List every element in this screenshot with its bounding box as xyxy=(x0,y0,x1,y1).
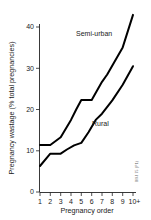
credit-label: BMJ 75 (P1) xyxy=(135,161,139,182)
chart-figure: 0 10 20 30 40 1 2 3 4 5 6 7 8 9 10+ Preg… xyxy=(0,0,151,220)
y-tick-label-20: 20 xyxy=(26,106,34,113)
x-tick-label-3: 3 xyxy=(59,198,63,205)
y-tick-label-0: 0 xyxy=(30,188,34,195)
x-tick-label-1: 1 xyxy=(38,198,42,205)
line-chart: 0 10 20 30 40 1 2 3 4 5 6 7 8 9 10+ Preg… xyxy=(0,0,151,220)
x-tick-label-7: 7 xyxy=(100,198,104,205)
x-tick-label-2: 2 xyxy=(48,198,52,205)
x-tick-label-9: 9 xyxy=(121,198,125,205)
y-tick-label-30: 30 xyxy=(26,65,34,72)
x-tick-label-8: 8 xyxy=(110,198,114,205)
x-tick-label-10plus: 10+ xyxy=(129,198,141,205)
x-tick-label-4: 4 xyxy=(69,198,73,205)
x-axis-title: Pregnancy order xyxy=(60,206,114,215)
y-tick-label-40: 40 xyxy=(26,23,34,30)
x-tick-label-6: 6 xyxy=(90,198,94,205)
y-tick-group xyxy=(36,27,40,192)
series-line-rural xyxy=(40,66,133,166)
series-label-semi-urban: Semi-urban xyxy=(76,30,112,37)
y-axis-title: Pregnancy wastage (% total pregnancies) xyxy=(7,41,16,174)
series-label-rural: Rural xyxy=(92,120,109,127)
y-tick-label-10: 10 xyxy=(26,147,34,154)
x-tick-group xyxy=(40,193,133,197)
x-tick-label-5: 5 xyxy=(79,198,83,205)
